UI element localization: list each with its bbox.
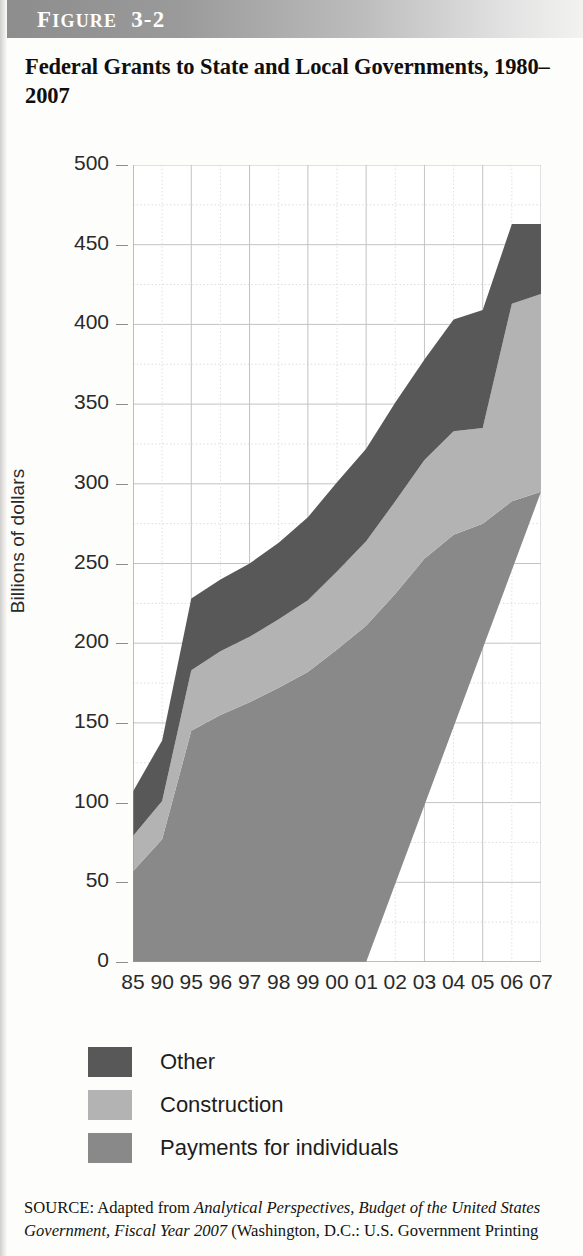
chart-area: Billions of dollars 05010015020025030035… [0,140,583,1020]
stacked-area-svg [133,165,541,962]
y-tick-mark [116,324,128,325]
legend-swatch-construction [88,1090,132,1120]
chart-legend: OtherConstructionPayments for individual… [88,1040,528,1169]
y-tick-label: 50 [49,868,109,892]
figure-title: Federal Grants to State and Local Govern… [25,52,575,110]
y-tick-label: 0 [49,948,109,972]
y-axis-title: Billions of dollars [7,261,29,821]
y-tick-label: 350 [49,390,109,414]
source-prefix: SOURCE: Adapted from [24,1198,194,1217]
figure-banner-text: IGURE [52,11,117,31]
legend-swatch-payments-for-individuals [88,1133,132,1163]
y-tick-label: 400 [49,310,109,334]
y-tick-mark [116,404,128,405]
y-tick-mark [116,245,128,246]
legend-swatch-other [88,1047,132,1077]
x-tick-label: 07 [521,970,561,994]
y-tick-mark [116,165,128,166]
legend-label-construction: Construction [160,1092,284,1118]
legend-item-payments-for-individuals: Payments for individuals [88,1126,528,1169]
source-suffix: (Washington, D.C.: U.S. Government Print… [227,1221,538,1240]
y-tick-label: 300 [49,470,109,494]
y-tick-mark [116,803,128,804]
plot-canvas [133,165,541,962]
legend-label-other: Other [160,1049,215,1075]
y-tick-mark [116,564,128,565]
y-tick-mark [116,484,128,485]
y-tick-label: 250 [49,550,109,574]
y-tick-mark [116,643,128,644]
y-tick-label: 150 [49,709,109,733]
y-tick-mark [116,882,128,883]
figure-banner-prefix: F [37,7,52,32]
legend-item-other: Other [88,1040,528,1083]
legend-label-payments-for-individuals: Payments for individuals [160,1135,398,1161]
y-tick-mark [116,962,128,963]
figure-banner: FIGURE 3-2 [7,0,583,38]
figure-banner-number: 3-2 [131,7,165,32]
y-tick-label: 500 [49,151,109,175]
y-tick-label: 200 [49,629,109,653]
figure-banner-label: FIGURE 3-2 [37,7,165,33]
y-tick-label: 450 [49,231,109,255]
source-note: SOURCE: Adapted from Analytical Perspect… [24,1196,576,1242]
area-series [133,224,541,962]
y-tick-label: 100 [49,789,109,813]
y-tick-mark [116,723,128,724]
legend-item-construction: Construction [88,1083,528,1126]
